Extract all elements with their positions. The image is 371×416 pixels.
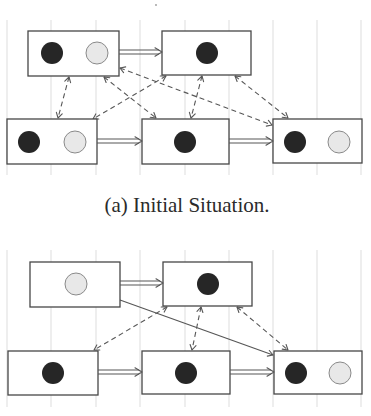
speck-mark — [155, 4, 157, 6]
light-token-icon — [329, 362, 351, 384]
state-box-E — [274, 351, 362, 394]
dark-token-icon — [284, 131, 306, 153]
state-box-A — [28, 31, 119, 76]
panel-a-caption: (a) Initial Situation. — [104, 193, 269, 217]
light-token-icon — [328, 131, 350, 153]
dark-token-icon — [18, 131, 40, 153]
state-box-D — [142, 119, 229, 164]
dark-token-icon — [42, 362, 64, 384]
dark-token-icon — [197, 273, 219, 295]
dark-token-icon — [175, 362, 197, 384]
dark-token-icon — [41, 42, 63, 64]
state-box-A — [30, 262, 120, 307]
dark-token-icon — [174, 131, 196, 153]
state-box-C — [7, 119, 97, 164]
state-box-C — [8, 351, 98, 395]
light-token-icon — [64, 131, 86, 153]
state-box-B — [162, 31, 251, 75]
state-box-E — [273, 119, 362, 163]
state-box-B — [163, 262, 252, 306]
light-token-icon — [86, 42, 108, 64]
dark-token-icon — [196, 42, 218, 64]
state-box-D — [142, 351, 230, 394]
light-token-icon — [65, 273, 87, 295]
figure: (a) Initial Situation. — [0, 0, 371, 416]
dark-token-icon — [285, 362, 307, 384]
